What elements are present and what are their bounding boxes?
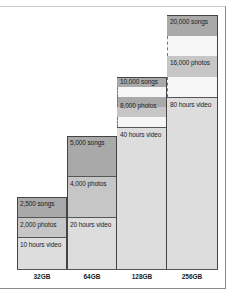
segment-photos: 2,000 photos <box>17 217 67 237</box>
plot-area: 2,500 songs 2,000 photos 10 hours video … <box>17 0 218 270</box>
segment-songs: 5,000 songs <box>67 136 117 176</box>
segment-photos: 4,000 photos <box>67 176 117 217</box>
segment-label: 2,500 songs <box>20 200 54 207</box>
segment-video: 10 hours video <box>17 237 67 270</box>
segment-label: 80 hours video <box>170 101 211 108</box>
x-tick-label: 64GB <box>67 273 117 280</box>
bar-128gb: 10,000 songs 8,000 photos 40 hours video <box>117 77 167 270</box>
x-tick-label: 128GB <box>117 273 167 280</box>
segment-label: 2,000 photos <box>20 221 56 228</box>
segment-gap <box>117 87 167 97</box>
segment-video: 80 hours video <box>167 97 218 270</box>
segment-label: 10 hours video <box>20 241 61 248</box>
segment-label: 8,000 photos <box>120 102 156 109</box>
segment-gap <box>117 117 167 127</box>
x-axis-labels: 32GB 64GB 128GB 256GB <box>17 273 218 283</box>
segment-label: 20,000 songs <box>170 18 208 25</box>
segment-songs: 10,000 songs <box>117 77 167 87</box>
segment-label: 4,000 photos <box>70 180 106 187</box>
bar-64gb: 5,000 songs 4,000 photos 20 hours video <box>67 136 117 270</box>
segment-photos: 16,000 photos <box>167 56 218 77</box>
segment-photos: 8,000 photos <box>117 107 167 117</box>
x-tick-label: 32GB <box>17 273 67 280</box>
segment-label: 16,000 photos <box>170 59 210 66</box>
segment-songs: 2,500 songs <box>17 197 67 217</box>
segment-video: 20 hours video <box>67 217 117 270</box>
segment-label: 40 hours video <box>120 131 161 138</box>
segment-video: 40 hours video <box>117 127 167 270</box>
bar-32gb: 2,500 songs 2,000 photos 10 hours video <box>17 197 67 270</box>
segment-label: 20 hours video <box>70 221 111 228</box>
segment-label: 10,000 songs <box>120 78 158 85</box>
bar-256gb: 20,000 songs 16,000 photos 80 hours vide… <box>167 15 218 270</box>
segment-gap <box>167 77 218 97</box>
x-axis-baseline <box>17 269 218 270</box>
x-tick-label: 256GB <box>167 273 217 280</box>
segment-gap <box>167 36 218 56</box>
segment-label: 5,000 songs <box>70 139 104 146</box>
segment-songs: 20,000 songs <box>167 15 218 36</box>
